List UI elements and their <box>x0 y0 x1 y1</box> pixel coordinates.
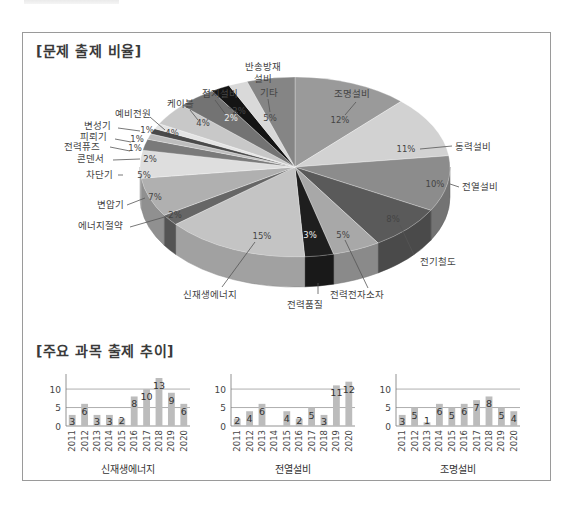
x-tick: 2014 <box>104 430 114 452</box>
x-tick: 2019 <box>331 430 341 452</box>
pie-label-반송방재설비: 반송방재 <box>245 61 281 72</box>
pie-side-전력품질 <box>305 254 334 287</box>
x-tick: 2013 <box>422 430 432 452</box>
pie-label-전력퓨즈: 전력퓨즈 <box>64 141 100 152</box>
bar-value-label: 4 <box>284 413 290 424</box>
y-tick: 5 <box>55 403 61 413</box>
x-tick: 2013 <box>92 430 102 452</box>
y-tick: 0 <box>385 422 391 432</box>
x-tick: 2017 <box>472 430 482 452</box>
bar-value-label: 6 <box>181 406 187 417</box>
y-tick: 5 <box>220 403 226 413</box>
bar-value-label: 12 <box>343 384 355 395</box>
pie-label-변압기: 변압기 <box>97 199 124 210</box>
pie-pct-전열설비: 10% <box>426 179 445 189</box>
bar-value-label: 5 <box>412 410 418 421</box>
pie-pct-조명설비: 12% <box>331 115 350 125</box>
x-tick: 2018 <box>484 430 494 452</box>
x-tick: 2015 <box>447 430 457 452</box>
y-tick: 0 <box>220 422 226 432</box>
bar-value-label: 4 <box>247 413 253 424</box>
pie-label-변성기: 변성기 <box>84 120 111 131</box>
pie-pct-변성기: 1% <box>140 125 154 135</box>
x-tick: 2012 <box>80 430 90 452</box>
x-tick: 2020 <box>344 430 354 452</box>
pie-pct-신재생에너지: 15% <box>253 231 272 241</box>
pie-label-전기철도: 전기철도 <box>420 256 456 267</box>
bar-value-label: 3 <box>321 416 327 427</box>
bar-value-label: 1 <box>424 415 430 426</box>
pie-label-동력설비: 동력설비 <box>455 141 491 152</box>
x-tick: 2020 <box>179 430 189 452</box>
pie-label-전력전자소자: 전력전자소자 <box>330 289 384 300</box>
leader-line <box>118 128 140 131</box>
pie-label-콘덴서: 콘덴서 <box>77 153 104 164</box>
x-tick: 2019 <box>166 430 176 452</box>
x-tick: 2016 <box>459 430 469 452</box>
pie-pct-전력퓨즈: 1% <box>128 143 142 153</box>
x-tick: 2019 <box>496 430 506 452</box>
pie-pct-기타: 5% <box>263 113 277 123</box>
leader-line <box>450 184 459 187</box>
bar-chart-caption: 조명설비 <box>440 464 476 475</box>
x-tick: 2017 <box>142 430 152 452</box>
bar-value-label: 8 <box>486 398 492 409</box>
bar-value-label: 6 <box>259 406 265 417</box>
bar-value-label: 6 <box>82 406 88 417</box>
pie-pct-케이블: 4% <box>196 118 210 128</box>
bar-value-label: 3 <box>399 416 405 427</box>
x-tick: 2015 <box>282 430 292 452</box>
bar-chart-caption: 전열설비 <box>275 464 311 475</box>
x-tick: 2014 <box>269 430 279 452</box>
x-tick: 2012 <box>245 430 255 452</box>
pie-pct-전력전자소자: 5% <box>336 230 350 240</box>
pie-label-기타: 기타 <box>260 87 278 98</box>
bar-chart-heating-equipment: 0510220114201262013201442015220165201732… <box>205 370 365 484</box>
bar-value-label: 5 <box>449 410 455 421</box>
bar-value-label: 9 <box>168 395 174 406</box>
pie-pct-에너지절약: 2% <box>168 210 182 220</box>
pie-pct-피뢰기: 1% <box>130 134 144 144</box>
x-tick: 2014 <box>434 430 444 452</box>
x-tick: 2012 <box>410 430 420 452</box>
bar-chart-lighting-equipment: 0510320115201212013620145201562016720178… <box>370 370 530 484</box>
pie-chart: 12%조명설비11%동력설비10%전열설비8%전기철도5%전력전자소자3%전력품… <box>0 0 577 330</box>
leader-line <box>115 139 131 142</box>
pie-label-에너지절약: 에너지절약 <box>78 220 123 231</box>
pie-label-조명설비: 조명설비 <box>334 88 370 99</box>
bar-value-label: 13 <box>153 380 165 391</box>
bar-value-label: 2 <box>296 415 302 426</box>
bar-chart-new-renewable-energy: 0510320116201232013320142201582016102017… <box>40 370 200 484</box>
x-tick: 2015 <box>117 430 127 452</box>
bar-value-label: 2 <box>119 415 125 426</box>
x-tick: 2011 <box>397 430 407 452</box>
bar-value-label: 3 <box>94 416 100 427</box>
pie-label-전열설비: 전열설비 <box>462 181 498 192</box>
bar-value-label: 8 <box>131 398 137 409</box>
bar-value-label: 5 <box>498 410 504 421</box>
x-tick: 2018 <box>319 430 329 452</box>
x-tick: 2011 <box>67 430 77 452</box>
pie-pct-변압기: 7% <box>148 192 162 202</box>
pie-pct-동력설비: 11% <box>397 144 416 154</box>
x-tick: 2016 <box>294 430 304 452</box>
pie-label-반송방재설비-line2: 설비 <box>254 73 272 84</box>
pie-label-피뢰기: 피뢰기 <box>80 131 107 142</box>
pie-label-접지설비: 접지설비 <box>202 88 238 99</box>
y-tick: 0 <box>55 422 61 432</box>
x-tick: 2020 <box>509 430 519 452</box>
x-tick: 2018 <box>154 430 164 452</box>
pie-label-전력품질: 전력품질 <box>287 299 323 310</box>
bar-value-label: 3 <box>69 416 75 427</box>
x-tick: 2011 <box>232 430 242 452</box>
bar-chart-caption: 신재생에너지 <box>101 464 155 475</box>
bar-value-label: 4 <box>511 413 517 424</box>
pie-pct-예비전원: 4% <box>165 128 179 138</box>
leader-line <box>110 147 130 151</box>
y-tick: 10 <box>215 385 227 395</box>
pie-pct-반송방재설비: 2% <box>232 106 246 116</box>
pie-pct-차단기: 5% <box>137 170 151 180</box>
y-tick: 5 <box>385 403 391 413</box>
bar-value-label: 3 <box>106 416 112 427</box>
pie-label-예비전원: 예비전원 <box>115 108 151 119</box>
